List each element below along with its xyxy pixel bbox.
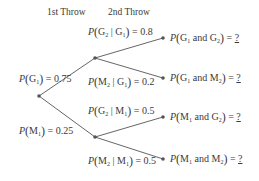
header-second-throw: 2nd Throw — [108, 6, 150, 18]
value-p-g1: 0.75 — [54, 73, 72, 84]
label-p-m1: P(M1) = 0.25 — [19, 125, 73, 137]
outcome-g1-and-g2: P(G1 and G2) = ? — [170, 32, 239, 44]
node-root — [37, 94, 41, 98]
branch-m1-g2 — [95, 117, 163, 137]
outcome-m1-and-g2: P(M1 and G2) = ? — [170, 111, 241, 123]
answer-blank-m1g2: ? — [236, 111, 240, 122]
value-p-m2-given-m1: 0.5 — [144, 155, 157, 166]
answer-blank-g1g2: ? — [235, 32, 239, 43]
answer-blank-g1m2: ? — [236, 72, 240, 83]
label-p-g2-given-m1: P(G2 | M1) = 0.5 — [88, 105, 154, 117]
node-g1m2 — [161, 76, 165, 80]
label-p-g2-given-g1: P(G2 | G1) = 0.8 — [88, 26, 153, 38]
node-g1 — [93, 56, 97, 60]
value-p-m1: 0.25 — [56, 125, 74, 136]
label-p-m2-given-g1: P(M2 | G1) = 0.2 — [88, 76, 154, 88]
node-m1 — [93, 135, 97, 139]
label-p-m2-given-m1: P(M2 | M1) = 0.5 — [88, 155, 156, 167]
value-p-g2-given-m1: 0.5 — [142, 105, 155, 116]
node-m1m2 — [161, 157, 165, 161]
branch-g1-g2 — [95, 38, 163, 58]
header-first-throw: 1st Throw — [47, 6, 86, 18]
answer-blank-m1m2: ? — [238, 153, 242, 164]
outcome-m1-and-m2: P(M1 and M2) = ? — [170, 153, 242, 165]
outcome-g1-and-m2: P(G1 and M2) = ? — [170, 72, 241, 84]
value-p-m2-given-g1: 0.2 — [142, 76, 155, 87]
node-g1g2 — [161, 36, 165, 40]
value-p-g2-given-g1: 0.8 — [140, 26, 153, 37]
label-p-g1: P(G1) = 0.75 — [19, 73, 71, 85]
node-m1g2 — [161, 115, 165, 119]
